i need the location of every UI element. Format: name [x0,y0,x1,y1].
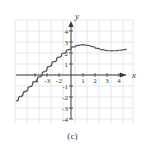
y-tick-label: -2 [62,94,68,102]
coordinate-plane-chart: -4 -3 -2 1 2 3 4 4 3 2 1 -1 -2 -3 -4 y x [0,0,145,152]
x-tick-label: 4 [117,77,121,85]
y-tick-label: -3 [62,105,68,113]
y-tick-label: -4 [62,116,68,124]
y-axis-arrow [68,21,73,27]
y-tick-label: -1 [62,83,68,91]
grid-lines [15,20,133,123]
y-tick-label: 3 [65,39,69,47]
x-axis-label: x [131,70,136,80]
y-tick-label: 1 [65,61,69,69]
figure-container: -4 -3 -2 1 2 3 4 4 3 2 1 -1 -2 -3 -4 y x… [0,0,145,152]
y-tick-label: 4 [65,28,69,36]
axis-lines [16,23,126,119]
y-axis-label: y [74,11,79,21]
x-tick-label: 3 [105,77,109,85]
figure-caption: (c) [0,131,145,141]
x-tick-labels: -4 -3 -2 1 2 3 4 [32,77,121,85]
x-tick-label: 1 [81,77,85,85]
x-tick-label: 2 [93,77,97,85]
x-tick-label: -3 [44,77,50,85]
